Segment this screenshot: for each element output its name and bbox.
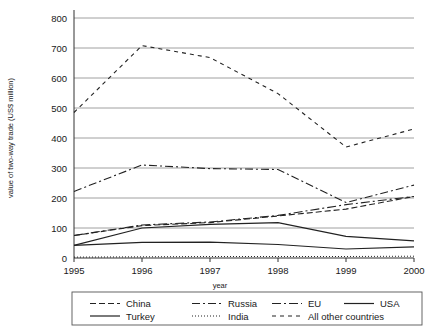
y-tick-label: 800 — [51, 13, 67, 24]
y-tick-label: 100 — [51, 223, 67, 234]
y-tick-label: 300 — [51, 163, 67, 174]
legend-label-all-other-countries[interactable]: All other countries — [308, 311, 384, 322]
series-line-russia — [74, 165, 414, 203]
legend-label-turkey[interactable]: Turkey — [126, 311, 155, 322]
legend-label-usa[interactable]: USA — [380, 298, 400, 309]
x-tick-label: 1996 — [131, 265, 152, 276]
y-tick-label: 700 — [51, 43, 67, 54]
x-axis-title: year — [213, 281, 228, 290]
y-axis-title: value of two-way trade (US$ million) — [6, 77, 15, 198]
x-tick-label: 1999 — [335, 265, 356, 276]
series-line-turkey — [74, 242, 414, 249]
x-tick-label: 1997 — [199, 265, 220, 276]
chart-container: 0100200300400500600700800199519961997199… — [0, 0, 430, 329]
series-line-india — [74, 256, 414, 257]
trade-value-line-chart: 0100200300400500600700800199519961997199… — [0, 0, 430, 329]
legend-label-india[interactable]: India — [228, 311, 249, 322]
y-tick-label: 500 — [51, 103, 67, 114]
legend-label-china[interactable]: China — [126, 298, 152, 309]
x-tick-label: 1998 — [267, 265, 288, 276]
y-tick-label: 0 — [62, 253, 67, 264]
y-tick-label: 600 — [51, 73, 67, 84]
legend-label-eu[interactable]: EU — [308, 298, 321, 309]
y-tick-label: 200 — [51, 193, 67, 204]
x-tick-label: 1995 — [63, 265, 84, 276]
y-tick-label: 400 — [51, 133, 67, 144]
legend-label-russia[interactable]: Russia — [228, 298, 258, 309]
series-line-usa — [74, 223, 414, 246]
x-tick-label: 2000 — [403, 265, 424, 276]
series-line-all-other-countries — [74, 46, 414, 147]
series-line-eu — [74, 197, 414, 236]
